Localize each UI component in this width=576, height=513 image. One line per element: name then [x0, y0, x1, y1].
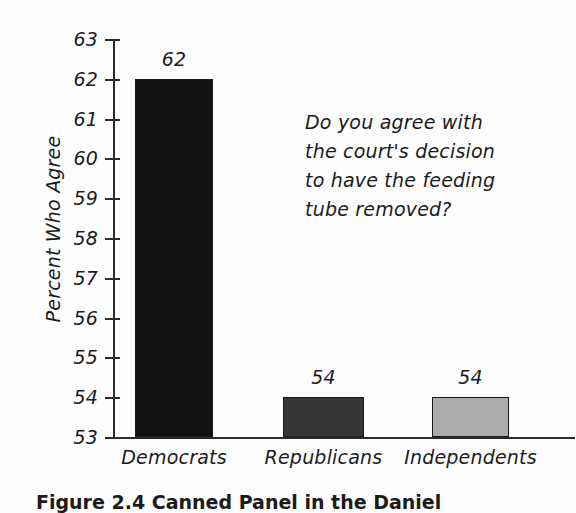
bar-value-republicans: 54 — [283, 368, 364, 387]
y-axis-tick-label: 55 — [48, 348, 98, 367]
y-axis-tick-label: 61 — [48, 110, 98, 129]
annotation-line-2: the court's decision — [305, 137, 535, 166]
category-label-independents: Independents — [381, 447, 561, 468]
figure-caption: Figure 2.4 Canned Panel in the Daniel — [36, 491, 441, 513]
y-axis-tick-label: 56 — [48, 309, 98, 328]
bar-independents — [432, 397, 509, 437]
y-axis-tick-label: 54 — [48, 388, 98, 407]
bar-value-independents: 54 — [432, 368, 509, 387]
y-axis-tick-label: 59 — [48, 189, 98, 208]
y-axis-tick-mark — [105, 437, 120, 439]
y-axis-tick-label: 53 — [48, 428, 98, 447]
annotation-line-1: Do you agree with — [305, 108, 535, 137]
y-axis-tick-label: 57 — [48, 269, 98, 288]
bar-value-democrats: 62 — [135, 50, 213, 69]
y-axis-tick-label: 62 — [48, 70, 98, 89]
y-axis-tick-label: 60 — [48, 149, 98, 168]
annotation-line-4: tube removed? — [305, 195, 535, 224]
x-axis-line — [113, 437, 575, 439]
bar-democrats — [135, 79, 213, 437]
bar-republicans — [283, 397, 364, 437]
annotation-line-3: to have the feeding — [305, 166, 535, 195]
y-axis-tick-label: 63 — [48, 30, 98, 49]
question-annotation: Do you agree withthe court's decisionto … — [305, 108, 535, 224]
y-axis-tick-label: 58 — [48, 229, 98, 248]
